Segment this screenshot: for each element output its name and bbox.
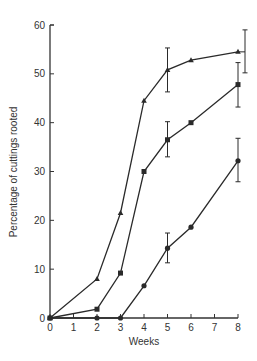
series-line bbox=[50, 52, 238, 318]
x-tick-label: 4 bbox=[141, 322, 147, 333]
y-tick-label: 50 bbox=[34, 68, 46, 79]
circle-marker bbox=[235, 158, 240, 163]
y-tick-label: 60 bbox=[34, 20, 46, 31]
y-tick-label: 0 bbox=[39, 313, 45, 324]
triangle-marker bbox=[118, 210, 124, 215]
square-marker bbox=[189, 120, 194, 125]
x-tick-label: 5 bbox=[165, 322, 171, 333]
x-tick-label: 2 bbox=[94, 322, 100, 333]
y-tick-label: 10 bbox=[34, 264, 46, 275]
square-marker bbox=[236, 82, 241, 87]
square-marker bbox=[142, 169, 147, 174]
series-circle bbox=[47, 138, 240, 320]
x-tick-label: 8 bbox=[235, 322, 241, 333]
y-tick-label: 40 bbox=[34, 117, 46, 128]
y-axis-title: Percentage of cuttings rooted bbox=[8, 107, 19, 238]
x-tick-label: 0 bbox=[47, 322, 53, 333]
square-marker bbox=[95, 307, 100, 312]
circle-marker bbox=[188, 225, 193, 230]
circle-marker bbox=[118, 315, 123, 320]
triangle-marker bbox=[94, 276, 100, 281]
plot-area bbox=[47, 30, 247, 321]
circle-marker bbox=[141, 283, 146, 288]
circle-marker bbox=[165, 246, 170, 251]
series-triangle bbox=[47, 30, 247, 320]
square-marker bbox=[165, 137, 170, 142]
circle-marker bbox=[94, 315, 99, 320]
circle-marker bbox=[47, 315, 52, 320]
x-tick-label: 3 bbox=[118, 322, 124, 333]
x-tick-label: 6 bbox=[188, 322, 194, 333]
x-axis-title: Weeks bbox=[129, 336, 159, 347]
square-marker bbox=[118, 271, 123, 276]
y-tick-label: 30 bbox=[34, 166, 46, 177]
line-chart: 0102030405060012345678 Weeks Percentage … bbox=[0, 0, 257, 361]
x-tick-label: 7 bbox=[212, 322, 218, 333]
axes: 0102030405060012345678 bbox=[34, 20, 241, 334]
y-tick-label: 20 bbox=[34, 215, 46, 226]
x-tick-label: 1 bbox=[71, 322, 77, 333]
